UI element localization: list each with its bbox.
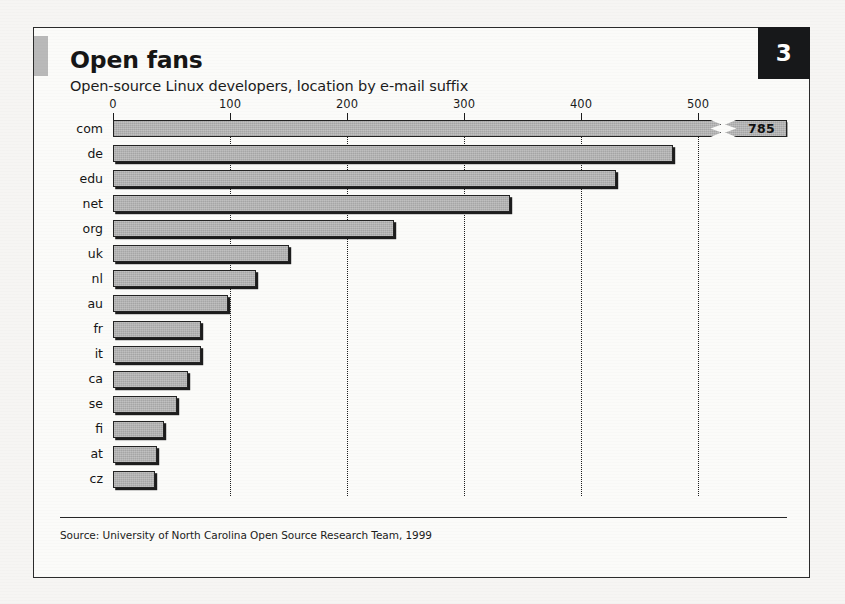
bar-chart-plot-area: 0100200300400500com785deedunetorguknlauf…	[113, 120, 698, 496]
x-tick-300	[464, 113, 465, 120]
bar-se[interactable]	[113, 396, 177, 413]
x-tick-200	[347, 113, 348, 120]
bar-row: com785	[113, 120, 698, 145]
bar-cz[interactable]	[113, 471, 155, 488]
x-tick-label-0: 0	[109, 97, 116, 111]
x-tick-label-500: 500	[687, 97, 709, 111]
bar-edu[interactable]	[113, 170, 616, 187]
bar-fr[interactable]	[113, 321, 201, 338]
bar-uk[interactable]	[113, 245, 289, 262]
bar-fi[interactable]	[113, 421, 164, 438]
category-label-ca: ca	[88, 373, 103, 386]
bar-row: nl	[113, 270, 698, 295]
x-tick-label-100: 100	[219, 97, 241, 111]
bar-org[interactable]	[113, 220, 394, 237]
bar-row: org	[113, 220, 698, 245]
x-tick-500	[698, 113, 699, 120]
bar-row: se	[113, 396, 698, 421]
category-label-org: org	[82, 223, 103, 236]
category-label-de: de	[87, 148, 103, 161]
category-label-edu: edu	[79, 173, 103, 186]
scanned-page: 3 Open fans Open-source Linux developers…	[0, 0, 845, 604]
bar-row: it	[113, 346, 698, 371]
bar-row: edu	[113, 170, 698, 195]
category-label-uk: uk	[88, 248, 103, 261]
x-tick-label-400: 400	[570, 97, 592, 111]
page-number-badge: 3	[758, 27, 810, 79]
value-label-com: 785	[725, 120, 787, 137]
gridline-500	[698, 120, 699, 496]
bar-nl[interactable]	[113, 270, 256, 287]
x-tick-label-200: 200	[336, 97, 358, 111]
category-label-cz: cz	[90, 473, 103, 486]
x-tick-label-300: 300	[453, 97, 475, 111]
category-label-nl: nl	[92, 273, 103, 286]
bar-outline-com	[113, 120, 721, 137]
x-tick-100	[230, 113, 231, 120]
bar-row: fr	[113, 321, 698, 346]
category-label-se: se	[89, 398, 103, 411]
category-label-at: at	[90, 448, 103, 461]
bar-row: net	[113, 195, 698, 220]
category-label-it: it	[95, 348, 103, 361]
x-tick-400	[581, 113, 582, 120]
bar-row: cz	[113, 471, 698, 496]
page-number-label: 3	[776, 40, 793, 66]
bar-it[interactable]	[113, 346, 201, 363]
category-label-net: net	[82, 198, 103, 211]
bar-row: uk	[113, 245, 698, 270]
bar-row: fi	[113, 421, 698, 446]
bar-row: au	[113, 295, 698, 320]
category-label-fr: fr	[93, 323, 103, 336]
bar-row: ca	[113, 371, 698, 396]
page-subtitle: Open-source Linux developers, location b…	[70, 78, 468, 94]
bar-ca[interactable]	[113, 371, 188, 388]
bar-de[interactable]	[113, 145, 673, 162]
category-label-fi: fi	[95, 423, 103, 436]
footer-divider	[60, 517, 787, 518]
source-note: Source: University of North Carolina Ope…	[60, 529, 432, 541]
category-label-com: com	[76, 123, 103, 136]
left-accent-tab	[34, 36, 48, 76]
bar-net[interactable]	[113, 195, 510, 212]
bar-au[interactable]	[113, 295, 228, 312]
page-title: Open fans	[70, 46, 203, 74]
x-tick-0	[113, 113, 114, 120]
category-label-au: au	[87, 298, 103, 311]
bar-row: at	[113, 446, 698, 471]
bar-at[interactable]	[113, 446, 157, 463]
chart-card: 3 Open fans Open-source Linux developers…	[33, 27, 810, 578]
bar-row: de	[113, 145, 698, 170]
